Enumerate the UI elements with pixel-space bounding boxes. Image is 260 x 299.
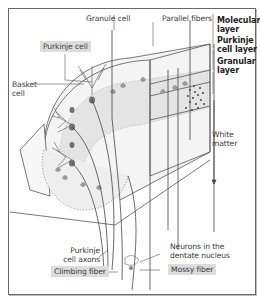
label-granular-layer-line1: Granular: [217, 57, 256, 66]
label-dentate-line1: Neurons in the: [170, 242, 224, 251]
label-basket-cell-line2: cell: [12, 89, 25, 98]
label-dentate-line2: dentate nucleus: [170, 251, 230, 260]
label-parallel-fibers: Parallel fibers: [162, 14, 212, 23]
dentate-nucleus: [125, 255, 139, 269]
label-purkinje-layer-line2: cell layer: [217, 45, 257, 54]
label-molecular-layer-line2: layer: [217, 25, 239, 34]
label-granular-layer-line2: layer: [217, 66, 239, 75]
label-purkinje-cell: Purkinje cell: [40, 41, 91, 52]
label-molecular-layer-line1: Molecular: [217, 16, 260, 25]
label-granule-cell: Granule cell: [86, 14, 130, 23]
label-purkinje-axons-line2: cell axons: [50, 255, 100, 264]
folium-block: [10, 44, 210, 225]
label-white-matter-line2: matter: [212, 139, 237, 148]
label-climbing-fiber: Climbing fiber: [51, 266, 109, 277]
label-purkinje-layer-line1: Purkinje: [217, 36, 254, 45]
label-white-matter-line1: White: [212, 130, 234, 139]
label-mossy-fiber: Mossy fiber: [168, 264, 216, 275]
label-basket-cell-line1: Basket: [12, 80, 37, 89]
label-purkinje-axons-line1: Purkinje: [70, 246, 100, 255]
